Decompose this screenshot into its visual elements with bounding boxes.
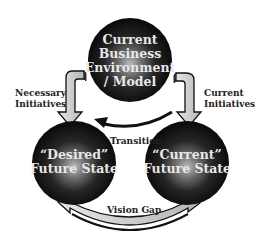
node-current-business-environment: Current Business Environment / Model — [85, 18, 176, 102]
business-vision-diagram: Current Business Environment / Model “De… — [0, 0, 258, 248]
node-top-line4: / Model — [104, 74, 157, 89]
current-initiatives-arrow — [174, 73, 201, 126]
necessary-initiatives-label-line2: Initiatives — [15, 99, 66, 109]
node-current-future-state: “Current” Future State — [143, 121, 231, 205]
node-left-line2: Future State — [30, 161, 118, 176]
transition-arrow — [94, 112, 172, 128]
node-top-line1: Current — [102, 32, 157, 47]
node-top-line3: Environment — [85, 60, 176, 75]
node-left-line1: “Desired” — [40, 147, 108, 162]
node-right-line2: Future State — [143, 161, 231, 176]
vision-gap-label: Vision Gap — [106, 205, 161, 215]
node-right-line1: “Current” — [152, 147, 221, 162]
node-desired-future-state: “Desired” Future State — [30, 121, 118, 205]
necessary-initiatives-label-line1: Necessary — [15, 88, 67, 98]
current-initiatives-label-line2: Initiatives — [204, 99, 255, 109]
transition-label: Transition — [110, 136, 162, 146]
node-top-line2: Business — [99, 46, 162, 61]
current-initiatives-label-line1: Current — [204, 88, 244, 98]
